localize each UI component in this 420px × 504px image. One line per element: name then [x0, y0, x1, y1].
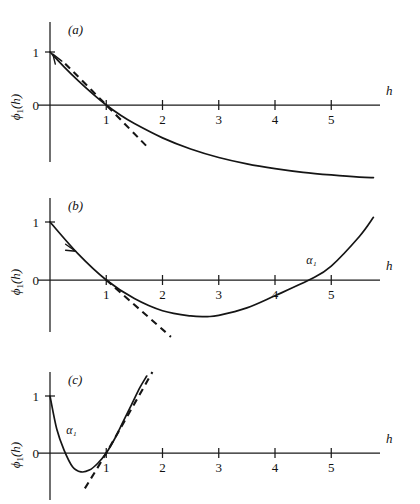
phi1-curve — [50, 217, 373, 316]
y-axis-label: ϕ1(h) — [8, 94, 25, 120]
y-tick-label: 0 — [33, 446, 40, 461]
plot-canvas: 1234501α₁(b)hϕ1(h) — [0, 180, 420, 350]
x-tick-label: 4 — [272, 460, 279, 475]
y-tick-label: 1 — [33, 45, 40, 60]
x-tick-label: 2 — [159, 460, 166, 475]
y-tick-label: 0 — [33, 273, 40, 288]
x-axis-label: h — [386, 258, 393, 273]
x-tick-label: 5 — [328, 112, 335, 127]
phi1-curve — [50, 376, 147, 472]
x-tick-label: 2 — [159, 112, 166, 127]
plot-panel-c: 1234501α₁(c)hϕ1(h) — [0, 350, 420, 504]
alpha1-root-label: α₁ — [66, 423, 76, 437]
x-tick-label: 5 — [328, 287, 335, 302]
plot-canvas: 1234501(a)hϕ1(h) — [0, 0, 420, 180]
y-axis-label-argument: (h) — [8, 269, 23, 284]
x-tick-label: 1 — [103, 287, 110, 302]
alpha1-root-label: α₁ — [306, 253, 316, 267]
y-axis-label: ϕ1(h) — [8, 442, 25, 468]
x-tick-label: 2 — [159, 287, 166, 302]
x-tick-label: 5 — [328, 460, 335, 475]
x-tick-label: 4 — [272, 112, 279, 127]
y-tick-label: 0 — [33, 98, 40, 113]
x-tick-label: 1 — [103, 112, 110, 127]
svg-text:ϕ1(h): ϕ1(h) — [8, 94, 25, 120]
figure-three-panel-phi-plots: 1234501(a)hϕ1(h)1234501α₁(b)hϕ1(h)123450… — [0, 0, 420, 504]
x-tick-label: 1 — [103, 460, 110, 475]
plot-canvas: 1234501α₁(c)hϕ1(h) — [0, 350, 420, 504]
plot-panel-a: 1234501(a)hϕ1(h) — [0, 0, 420, 180]
panel-label: (a) — [68, 22, 83, 37]
phi1-curve — [50, 52, 373, 178]
panel-label: (b) — [68, 198, 83, 213]
y-tick-label: 1 — [33, 215, 40, 230]
y-axis-label-argument: (h) — [8, 94, 23, 109]
x-axis-label: h — [386, 83, 393, 98]
svg-text:ϕ1(h): ϕ1(h) — [8, 269, 25, 295]
panel-label: (c) — [68, 372, 82, 387]
y-axis-label-argument: (h) — [8, 442, 23, 457]
x-tick-label: 3 — [216, 287, 223, 302]
svg-text:ϕ1(h): ϕ1(h) — [8, 442, 25, 468]
y-axis-label: ϕ1(h) — [8, 269, 25, 295]
y-tick-label: 1 — [33, 389, 40, 404]
x-axis-label: h — [386, 431, 393, 446]
x-tick-label: 3 — [216, 112, 223, 127]
x-tick-label: 3 — [216, 460, 223, 475]
plot-panel-b: 1234501α₁(b)hϕ1(h) — [0, 180, 420, 350]
